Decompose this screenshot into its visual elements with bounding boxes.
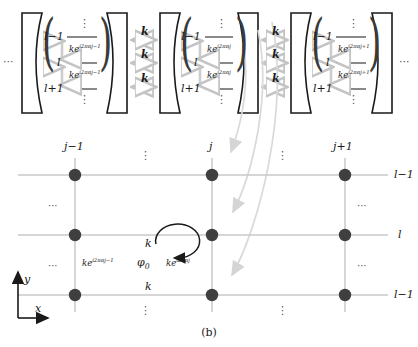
coupling-base: ke xyxy=(69,44,79,54)
coupling-base: ke xyxy=(69,70,79,80)
flux-loop-path xyxy=(156,224,200,258)
coupling-base: ke xyxy=(82,258,92,268)
coupling-exponent: i2παj xyxy=(217,43,231,49)
figure-container: ··· ··· ( ) ⋮ l−1 l l+1 ⋮ kei2παj−1 kei2… xyxy=(0,0,418,347)
coupling-exponent: i2παj−1 xyxy=(92,257,113,263)
cavity1-level-lminus1: l−1 xyxy=(44,31,64,42)
lattice-column-label-j-plus-1: j+1 xyxy=(333,141,353,152)
coupling-base: ke xyxy=(166,258,176,268)
lattice-node xyxy=(206,229,218,241)
flux-loop xyxy=(156,224,200,258)
lattice-row-label-top: l−1 xyxy=(394,169,414,180)
cavity3-vdots-top: ⋮ xyxy=(348,18,359,29)
mirror-left xyxy=(160,13,180,113)
coupling-exponent: i2παj xyxy=(176,257,190,263)
lattice-vdots-bottom-left: ⋮ xyxy=(140,305,151,316)
plaquette-flux-label: φ0 xyxy=(137,257,150,271)
lattice-hdots-right-lower: ··· xyxy=(357,261,367,271)
lattice-column-label-j-minus-1: j−1 xyxy=(64,141,84,152)
coupling-exponent: i2παj−1 xyxy=(79,43,100,49)
lattice-hdots-left-lower: ··· xyxy=(48,261,58,271)
intercavity-k-label: k xyxy=(272,73,280,84)
coupling-base: ke xyxy=(338,44,348,54)
lattice-node xyxy=(206,169,218,181)
cavity3-coupling-upper: kei2παj+1 xyxy=(338,44,370,53)
intercavity-k-label: k xyxy=(272,49,280,60)
coupling-exponent: i2παj xyxy=(217,69,231,75)
lattice-grid xyxy=(18,158,388,312)
ellipsis-right: ··· xyxy=(399,56,410,67)
cavity1-vdots-top: ⋮ xyxy=(79,18,90,29)
lattice-row-label-bottom: l−1 xyxy=(394,289,414,300)
lattice-node xyxy=(69,169,81,181)
cavity3-coupling-lower: kei2παj+1 xyxy=(338,70,370,79)
ellipsis-left: ··· xyxy=(3,56,14,67)
lattice-hdots-right-upper: ··· xyxy=(357,201,367,211)
lattice-vdots-bottom-right: ⋮ xyxy=(277,305,288,316)
intercavity-k-label: k xyxy=(141,49,149,60)
cavity1-level-l: l xyxy=(57,57,61,68)
y-axis-label: y xyxy=(24,274,30,285)
cavity1-bracket-right: ) xyxy=(99,11,112,73)
cavity2-vdots-bottom: ⋮ xyxy=(216,94,227,105)
cavity2-bracket-right: ) xyxy=(235,11,248,73)
flux-subscript: 0 xyxy=(145,262,150,271)
lattice-node xyxy=(339,289,351,301)
cavity2-level-lplus1: l+1 xyxy=(181,83,201,94)
coupling-base: ke xyxy=(207,70,217,80)
plaquette-right-coupling: kei2παj xyxy=(166,258,190,267)
intercavity-k-label: k xyxy=(141,73,149,84)
plaquette-left-coupling: kei2παj−1 xyxy=(82,258,114,267)
mirror-left xyxy=(22,13,42,113)
cavity1-level-lplus1: l+1 xyxy=(44,83,64,94)
lattice-node xyxy=(206,289,218,301)
cavity3-level-lplus1: l+1 xyxy=(313,83,333,94)
coupling-exponent: i2παj−1 xyxy=(79,69,100,75)
coupling-base: ke xyxy=(338,70,348,80)
x-axis-label: x xyxy=(35,303,41,314)
cavity3-level-l: l xyxy=(326,57,330,68)
flux-symbol: φ xyxy=(137,256,145,269)
lattice-column-label-j: j xyxy=(209,141,212,152)
lattice-node xyxy=(339,169,351,181)
lattice-node xyxy=(69,229,81,241)
lattice-node xyxy=(69,289,81,301)
mirror-left xyxy=(291,13,311,113)
cavity2-level-lminus1: l−1 xyxy=(181,31,201,42)
cavity1-vdots-bottom: ⋮ xyxy=(79,94,90,105)
cavity2-coupling-lower: kei2παj xyxy=(207,70,231,79)
lattice-vdots-top-left: ⋮ xyxy=(140,150,151,161)
lattice-hdots-left-upper: ··· xyxy=(48,201,58,211)
cavity3-level-lminus1: l−1 xyxy=(313,31,333,42)
intercavity-k-label: k xyxy=(272,26,280,37)
cavity3-vdots-bottom: ⋮ xyxy=(348,94,359,105)
lattice-row-label-middle: l xyxy=(398,229,402,240)
plaquette-k-bottom: k xyxy=(145,281,152,292)
coupling-base: ke xyxy=(207,44,217,54)
figure-caption: (b) xyxy=(0,326,418,339)
plaquette-k-top: k xyxy=(145,238,152,249)
lattice-vdots-top-right: ⋮ xyxy=(277,150,288,161)
cavity2-coupling-upper: kei2παj xyxy=(207,44,231,53)
coupling-exponent: i2παj+1 xyxy=(348,69,369,75)
intercavity-k-label: k xyxy=(141,26,149,37)
cavity2-vdots-top: ⋮ xyxy=(216,18,227,29)
lattice-node xyxy=(339,229,351,241)
coupling-exponent: i2παj+1 xyxy=(348,43,369,49)
cavity2-level-l: l xyxy=(194,57,198,68)
cavity1-coupling-lower: kei2παj−1 xyxy=(69,70,101,79)
cavity1-coupling-upper: kei2παj−1 xyxy=(69,44,101,53)
cavity3-bracket-right: ) xyxy=(368,11,381,73)
